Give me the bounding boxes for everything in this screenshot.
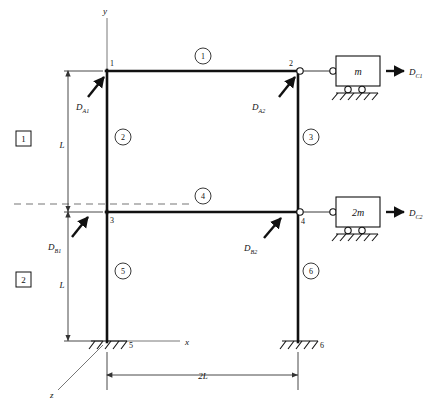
mass-label-m: m xyxy=(354,66,361,77)
force-label-DC1: DC1 xyxy=(408,67,423,79)
node-label-6: 6 xyxy=(320,341,324,350)
hinge-mass-2m xyxy=(330,209,336,215)
element-marker-3: 3 xyxy=(303,129,319,145)
hinge-mass-m xyxy=(330,68,336,74)
dimension-story-2-L: L xyxy=(58,212,103,341)
element-marker-5: 5 xyxy=(115,263,131,279)
axis-label-z: z xyxy=(49,390,54,400)
dimension-label-L-lower: L xyxy=(58,280,64,290)
frame-diagram: 1 2 3 4 5 6 1 2 3 4 5 6 xyxy=(0,0,431,409)
hatch-ground-2m xyxy=(332,234,378,241)
story-label-2: 2 xyxy=(21,275,26,285)
force-label-DC2: DC2 xyxy=(408,208,423,220)
element-label-3: 3 xyxy=(309,133,313,142)
dimension-label-L-upper: L xyxy=(58,140,64,150)
story-box-2: 2 xyxy=(16,272,31,287)
element-marker-4: 4 xyxy=(195,188,211,204)
roller-m-right xyxy=(359,86,365,92)
element-label-6: 6 xyxy=(309,267,313,276)
axis-label-x: x xyxy=(184,337,189,347)
dimension-span-2L: 2L xyxy=(107,352,298,390)
hinge-node-2 xyxy=(297,68,303,74)
element-label-1: 1 xyxy=(201,52,205,61)
element-label-2: 2 xyxy=(121,133,125,142)
hinge-node-4 xyxy=(297,209,303,215)
roller-m-left xyxy=(345,86,351,92)
element-label-5: 5 xyxy=(121,267,125,276)
node-label-2: 2 xyxy=(289,59,293,68)
element-marker-1: 1 xyxy=(195,48,211,64)
node-label-3: 3 xyxy=(110,216,114,225)
story-box-1: 1 xyxy=(16,131,31,146)
roller-2m-left xyxy=(345,227,351,233)
axis-label-y: y xyxy=(102,6,107,16)
hatch-ground-m xyxy=(332,93,378,100)
node-label-5: 5 xyxy=(129,341,133,350)
force-label-DB1: DB1 xyxy=(47,242,61,254)
axis-z xyxy=(58,345,103,390)
load-arrow-DB2: DB2 xyxy=(243,218,281,255)
dimension-label-2L: 2L xyxy=(198,371,208,381)
mass-block-m: m xyxy=(332,56,380,100)
element-label-4: 4 xyxy=(201,192,205,201)
displacement-arrow-DC1: DC1 xyxy=(386,67,423,79)
element-marker-6: 6 xyxy=(303,263,319,279)
element-marker-2: 2 xyxy=(115,129,131,145)
force-label-DB2: DB2 xyxy=(243,243,257,255)
roller-2m-right xyxy=(359,227,365,233)
story-label-1: 1 xyxy=(21,134,26,144)
force-label-DA2: DA2 xyxy=(251,102,265,114)
mass-label-2m: 2m xyxy=(352,207,364,218)
node-label-4: 4 xyxy=(301,217,305,226)
load-arrow-DA1: DA1 xyxy=(75,77,104,114)
mass-block-2m: 2m xyxy=(332,197,380,241)
displacement-arrow-DC2: DC2 xyxy=(386,208,423,220)
force-label-DA1: DA1 xyxy=(75,102,89,114)
dimension-story-1-L: L xyxy=(58,71,103,212)
figure-canvas: 1 2 3 4 5 6 1 2 3 4 5 6 xyxy=(0,0,431,409)
node-label-1: 1 xyxy=(110,59,114,68)
load-arrow-DA2: DA2 xyxy=(251,77,295,114)
load-arrow-DB1: DB1 xyxy=(47,217,88,254)
